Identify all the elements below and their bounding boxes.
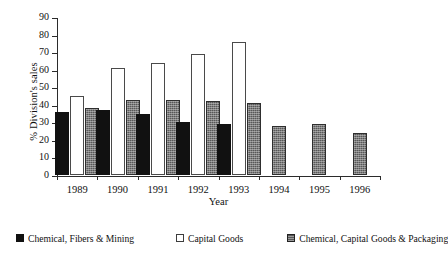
legend-item: Chemical, Fibers & Mining xyxy=(16,233,134,244)
y-axis-tick-label: 40 xyxy=(39,99,49,111)
bar xyxy=(55,112,69,175)
bar xyxy=(217,124,231,175)
legend-swatch xyxy=(16,234,24,242)
y-axis-tick: 40 xyxy=(52,106,57,107)
x-axis-tick-label: 1991 xyxy=(147,184,168,195)
x-axis-tick-label: 1989 xyxy=(67,184,88,195)
legend-label: Capital Goods xyxy=(188,233,243,244)
x-axis-tick xyxy=(138,176,139,180)
x-axis-tick xyxy=(259,176,260,180)
x-axis-tick xyxy=(219,176,220,180)
bar xyxy=(70,96,84,175)
y-axis-tick-label: 30 xyxy=(39,116,49,128)
legend-swatch xyxy=(176,234,184,242)
x-axis-tick xyxy=(380,176,381,180)
y-axis-tick-label: 60 xyxy=(39,64,49,76)
bar xyxy=(111,68,125,175)
y-axis-tick-label: 70 xyxy=(39,46,49,58)
x-axis-tick-label: 1994 xyxy=(269,184,290,195)
x-axis-tick-label: 1990 xyxy=(107,184,128,195)
y-axis-tick: 60 xyxy=(52,71,57,72)
bar xyxy=(176,122,190,175)
y-axis-tick-label: 50 xyxy=(39,81,49,93)
y-axis-title: % Division's sales xyxy=(28,22,39,182)
bar xyxy=(312,124,326,175)
bar xyxy=(191,54,205,175)
chart-legend: Chemical, Fibers & MiningCapital GoodsCh… xyxy=(0,230,424,246)
y-axis-tick: 50 xyxy=(52,88,57,89)
x-axis-tick-label: 1996 xyxy=(349,184,370,195)
y-axis-tick: 70 xyxy=(52,53,57,54)
y-axis-tick-label: 20 xyxy=(39,134,49,146)
bar xyxy=(96,110,110,175)
x-axis-title: Year xyxy=(57,196,380,207)
legend-item: Chemical, Capital Goods & Packaging xyxy=(287,233,448,244)
bar xyxy=(247,103,261,175)
y-axis-tick-label: 0 xyxy=(44,169,49,181)
y-axis-tick-label: 90 xyxy=(39,11,49,23)
y-axis-tick-label: 10 xyxy=(39,151,49,163)
bar xyxy=(353,133,367,175)
bar xyxy=(272,126,286,175)
legend-swatch xyxy=(287,234,295,242)
x-axis-tick xyxy=(299,176,300,180)
x-axis-tick-label: 1993 xyxy=(228,184,249,195)
bar xyxy=(136,114,150,175)
y-axis-tick: 80 xyxy=(52,36,57,37)
x-axis-tick xyxy=(340,176,341,180)
x-axis-tick-label: 1995 xyxy=(309,184,330,195)
x-axis-tick xyxy=(57,176,58,180)
bar xyxy=(151,63,165,175)
x-axis-tick xyxy=(178,176,179,180)
legend-item: Capital Goods xyxy=(176,233,243,244)
x-axis-tick xyxy=(97,176,98,180)
x-axis-tick-label: 1992 xyxy=(188,184,209,195)
y-axis-tick: 90 xyxy=(52,18,57,19)
plot-area: 0102030405060708090 19891990199119921993… xyxy=(57,18,380,176)
bar xyxy=(232,42,246,175)
legend-label: Chemical, Fibers & Mining xyxy=(28,233,134,244)
y-axis-tick-label: 80 xyxy=(39,29,49,41)
legend-label: Chemical, Capital Goods & Packaging xyxy=(299,233,448,244)
